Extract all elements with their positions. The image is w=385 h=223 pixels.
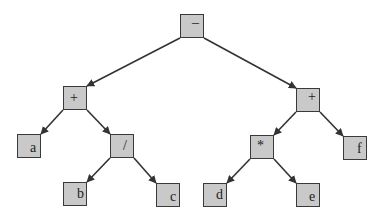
tree-node-e: e (296, 183, 320, 207)
edge-div-b (87, 158, 110, 182)
node-label: + (308, 90, 316, 104)
edge-plusL-a (41, 110, 63, 134)
tree-node-b: b (63, 182, 87, 206)
tree-node-mul: * (250, 135, 274, 159)
node-label: d (216, 188, 223, 202)
edge-div-c (134, 158, 156, 183)
tree-node-plusR: + (296, 88, 320, 112)
tree-node-root: – (180, 14, 204, 38)
edge-plusR-mul (274, 112, 296, 135)
node-label: * (257, 139, 264, 153)
node-label: b (77, 187, 84, 201)
node-label: / (123, 139, 127, 153)
node-label: f (357, 142, 362, 156)
edge-root-plusR (204, 38, 296, 88)
node-label: + (70, 91, 78, 105)
edge-mul-d (227, 159, 250, 183)
node-label: – (192, 16, 199, 30)
tree-node-plusL: + (63, 86, 87, 110)
edge-plusL-div (87, 110, 110, 134)
tree-node-d: d (203, 183, 227, 207)
node-label: a (30, 141, 36, 155)
tree-node-c: c (156, 183, 180, 207)
node-label: e (309, 190, 315, 204)
tree-node-f: f (343, 136, 367, 160)
edge-root-plusL (87, 38, 180, 86)
node-label: c (170, 190, 176, 204)
tree-node-a: a (17, 134, 41, 158)
edge-plusR-f (320, 112, 343, 136)
edge-mul-e (274, 159, 296, 183)
tree-node-div: / (110, 134, 134, 158)
